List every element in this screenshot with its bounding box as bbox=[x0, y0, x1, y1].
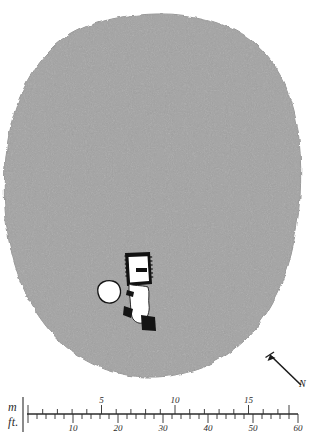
scale-tick-metric-10: 10 bbox=[171, 395, 180, 405]
scale-unit-imperial-label: ft. bbox=[8, 415, 19, 430]
plan-drawing bbox=[0, 0, 313, 439]
oval-feature bbox=[98, 281, 121, 303]
scale-tick-imperial-20: 20 bbox=[114, 423, 123, 433]
north-arrow-label: N bbox=[299, 378, 306, 389]
scale-tick-metric-15: 15 bbox=[244, 395, 253, 405]
scale-tick-imperial-60: 60 bbox=[294, 423, 303, 433]
scale-tick-imperial-40: 40 bbox=[204, 423, 213, 433]
scale-tick-imperial-10: 10 bbox=[69, 423, 78, 433]
scale-unit-metric-label: m bbox=[8, 400, 17, 415]
site-plan-figure: N m ft. 5 10 15 10 20 30 40 50 60 bbox=[0, 0, 313, 439]
scale-tick-imperial-50: 50 bbox=[249, 423, 258, 433]
scale-tick-imperial-30: 30 bbox=[159, 423, 168, 433]
rectangular-room bbox=[125, 252, 154, 286]
scale-tick-metric-5: 5 bbox=[99, 395, 104, 405]
north-arrow bbox=[266, 352, 302, 385]
